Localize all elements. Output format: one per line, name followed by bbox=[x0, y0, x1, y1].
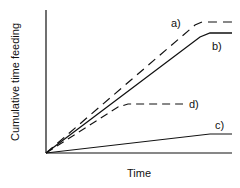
series-c-label: c) bbox=[215, 119, 224, 131]
x-axis-label: Time bbox=[46, 167, 232, 179]
series-d-line bbox=[46, 104, 183, 153]
series-b-label: b) bbox=[212, 40, 222, 52]
series-c-line bbox=[46, 134, 232, 153]
chart-plot bbox=[0, 0, 240, 188]
y-axis-label: Cumulative time feeding bbox=[0, 0, 30, 188]
series-d-label: d) bbox=[189, 98, 199, 110]
series-a-label: a) bbox=[171, 17, 181, 29]
series-a-line bbox=[46, 22, 232, 153]
y-axis-label-text: Cumulative time feeding bbox=[9, 23, 21, 141]
